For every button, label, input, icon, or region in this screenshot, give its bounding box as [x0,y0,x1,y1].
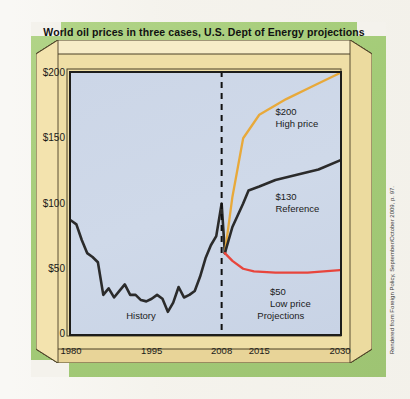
frame-bottom-bevel [36,349,372,363]
annotation-value: $130 [275,191,319,203]
annotation-value: $50 [270,286,311,298]
y-axis-tick-50: $50 [48,263,65,274]
series-line-high-price [225,73,340,253]
y-axis-tick-0: 0 [59,328,65,339]
x-axis-tick-2030: 2030 [329,345,350,356]
y-axis-tick-100: $100 [43,198,65,209]
series-line-history [71,204,225,312]
annotation-name: Reference [275,203,319,215]
x-axis-tick-2008: 2008 [211,345,232,356]
annotation-value: $200 [275,106,318,118]
region-label-projections: Projections [257,310,304,321]
y-axis-tick-200: $200 [43,67,65,78]
annotation-name: Low price [270,298,311,310]
page-title: World oil prices in three cases, U.S. De… [36,26,372,38]
frame-top-bevel [36,40,372,54]
y-axis-labels: 0$50$100$150$200 [8,0,65,399]
region-label-history: History [126,310,156,321]
annotation-name: High price [275,118,318,130]
x-axis-tick-2015: 2015 [249,345,270,356]
x-axis-tick-1995: 1995 [141,345,162,356]
y-axis-tick-150: $150 [43,132,65,143]
annotation-high-price: $200High price [275,106,318,130]
annotation-low-price: $50Low price [270,286,311,310]
annotation-reference: $130Reference [275,191,319,215]
x-axis-tick-1980: 1980 [60,345,81,356]
frame-right-bevel [350,40,372,363]
source-credit: Rendered from Foreign Policy, September/… [389,186,395,354]
series-line-low-price [225,253,340,273]
